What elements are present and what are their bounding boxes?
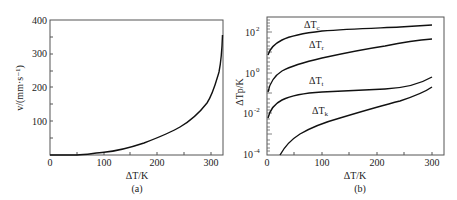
y-tick-b-1e0: 10 xyxy=(245,68,255,79)
curve-dTc xyxy=(268,25,432,55)
figure: 0 100 200 300 100 200 300 400 ΔT/K (a) v… xyxy=(0,0,457,200)
y-tick-b-1e2-exp: 2 xyxy=(256,25,260,33)
y-tick-a-100: 100 xyxy=(32,116,47,127)
curve-dTr xyxy=(268,39,432,92)
x-tick-a-200: 200 xyxy=(150,157,165,168)
x-tick-a-0: 0 xyxy=(48,157,53,168)
y-tick-b-1e-4-exp: -4 xyxy=(254,147,260,155)
x-tick-b-100: 100 xyxy=(315,157,330,168)
curve-dTk xyxy=(280,87,432,155)
panel-label-b: (b) xyxy=(354,183,366,195)
curve-label-dTc: ΔTc xyxy=(304,19,320,32)
y-tick-b-1e-2-exp: -2 xyxy=(254,106,260,114)
x-ticks-a xyxy=(50,37,211,155)
curve-v xyxy=(50,35,223,155)
curve-label-dTt: ΔTt xyxy=(309,75,324,88)
plot-frame-a xyxy=(50,20,223,155)
x-tick-b-0: 0 xyxy=(265,157,270,168)
y-axis-label-b: ΔTp/K xyxy=(234,77,245,105)
y-tick-b-1e-4: 10 xyxy=(243,149,253,160)
curve-label-dTr: ΔTr xyxy=(309,39,325,52)
x-tick-b-200: 200 xyxy=(370,157,385,168)
y-tick-b-1e2: 10 xyxy=(245,27,255,38)
y-tick-a-300: 300 xyxy=(32,48,47,59)
y-tick-b-1e0-exp: 0 xyxy=(256,66,260,74)
y-tick-a-200: 200 xyxy=(32,82,47,93)
panel-label-a: (a) xyxy=(131,183,142,195)
x-tick-a-300: 300 xyxy=(204,157,219,168)
chart-b: 0 100 200 300 10 2 10 0 10 -2 10 -4 ΔT/K… xyxy=(234,17,444,195)
x-tick-a-100: 100 xyxy=(97,157,112,168)
x-axis-label-a: ΔT/K xyxy=(126,170,149,181)
curve-dTt xyxy=(268,77,432,118)
x-axis-label-b: ΔT/K xyxy=(344,170,367,181)
curve-label-dTk: ΔTk xyxy=(312,105,329,118)
plot-frame-b xyxy=(267,17,444,155)
y-tick-b-1e-2: 10 xyxy=(243,108,253,119)
x-tick-b-300: 300 xyxy=(425,157,440,168)
y-tick-a-400: 400 xyxy=(32,15,47,26)
y-axis-label-a: v/(mm·s⁻¹) xyxy=(14,65,26,111)
chart-a: 0 100 200 300 100 200 300 400 ΔT/K (a) v… xyxy=(14,15,223,195)
